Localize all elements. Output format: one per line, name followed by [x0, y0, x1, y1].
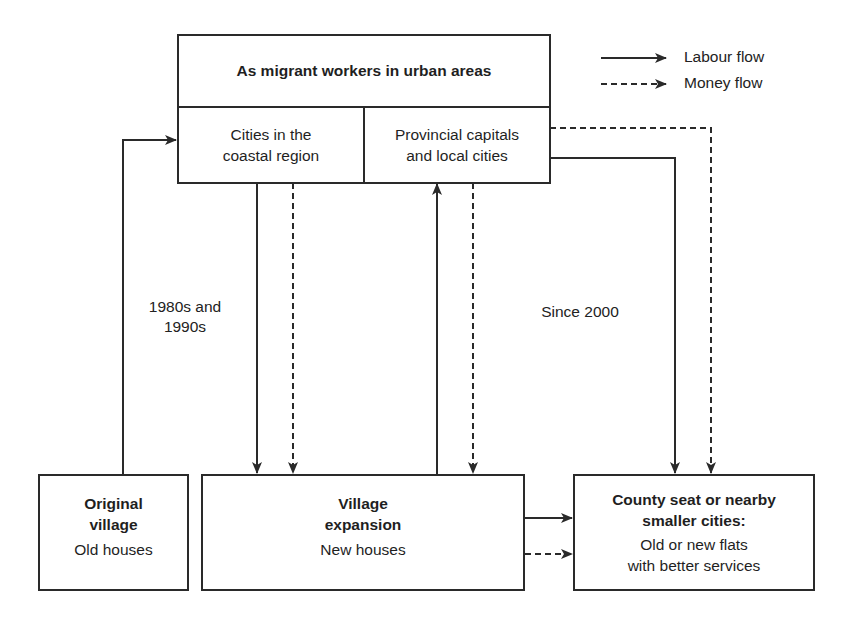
- original-village-box: Original village Old houses: [38, 474, 189, 591]
- county-seat-subtitle-1: Old or new flats: [640, 534, 748, 555]
- urban-migrant-title: As migrant workers in urban areas: [237, 62, 492, 80]
- period-label-1980s-1990s: 1980s and 1990s: [130, 297, 240, 337]
- provincial-capitals-line-2: and local cities: [406, 145, 508, 166]
- provincial-capitals-cell: Provincial capitals and local cities: [365, 108, 549, 182]
- county-seat-title-1: County seat or nearby: [612, 489, 776, 510]
- period-label-since-2000: Since 2000: [525, 302, 635, 322]
- coastal-cities-cell: Cities in the coastal region: [179, 108, 365, 182]
- period-label-line-1: 1980s and: [130, 297, 240, 317]
- urban-migrant-box: As migrant workers in urban areas Cities…: [177, 34, 551, 184]
- village-expansion-subtitle: New houses: [320, 539, 405, 560]
- original-village-title-1: Original: [84, 493, 143, 514]
- village-expansion-title-2: expansion: [325, 514, 402, 535]
- county-seat-box: County seat or nearby smaller cities: Ol…: [573, 474, 815, 591]
- coastal-cities-line-1: Cities in the: [231, 124, 312, 145]
- provincial-capitals-line-1: Provincial capitals: [395, 124, 519, 145]
- coastal-cities-line-2: coastal region: [223, 145, 320, 166]
- village-expansion-box: Village expansion New houses: [201, 474, 525, 591]
- original-village-subtitle: Old houses: [74, 539, 152, 560]
- legend-money-label: Money flow: [684, 74, 762, 92]
- original-village-title-2: village: [89, 514, 137, 535]
- legend-labour-label: Labour flow: [684, 48, 764, 66]
- county-seat-subtitle-2: with better services: [628, 555, 761, 576]
- period-label-line-2: 1990s: [130, 317, 240, 337]
- urban-migrant-header: As migrant workers in urban areas: [179, 36, 549, 108]
- county-seat-title-2: smaller cities:: [642, 510, 745, 531]
- village-expansion-title-1: Village: [338, 493, 388, 514]
- money-arrow-provincial-to-county: [550, 128, 711, 473]
